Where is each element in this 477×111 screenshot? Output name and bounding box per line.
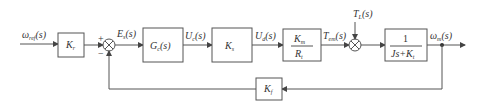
minus-sign: − [98,48,104,59]
plant-num: 1 [403,33,408,44]
ks-block [212,28,252,62]
plant-den: Js+Kt [391,48,415,60]
tl-label: TL(s) [353,8,373,20]
wm-label: ωm(s) [430,30,453,42]
tem-label: Tem(s) [323,30,347,42]
ud-label: Ud(s) [255,30,276,42]
block-diagram: ωref(s) Kr + − Es(s) Gc(s) Uc(s) Ks Ud(s… [0,0,477,111]
es-label: Es(s) [116,28,137,40]
uc-label: Uc(s) [185,30,206,42]
input-label: ωref(s) [22,29,47,41]
plus-sign: + [98,33,104,44]
gc-label: Gc(s) [150,40,171,52]
